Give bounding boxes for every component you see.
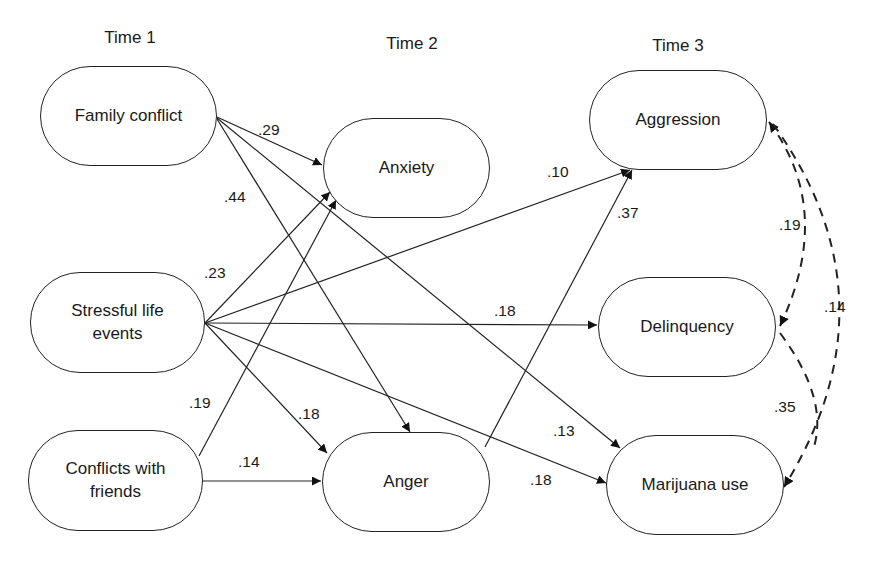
- node-label: Conflicts withfriends: [65, 458, 165, 504]
- coef-stress-anxiety: .23: [204, 264, 226, 282]
- coef-friends-anxiety: .19: [189, 394, 211, 412]
- time-2-label: Time 2: [386, 34, 437, 54]
- node-label: Anger: [383, 471, 428, 494]
- path-stress-delinquency: [205, 323, 597, 325]
- node-marijuana-use: Marijuana use: [606, 435, 784, 535]
- node-anxiety: Anxiety: [323, 118, 490, 218]
- coef-family-marijuana: .13: [553, 422, 575, 440]
- coef-stress-aggression: .10: [547, 163, 569, 181]
- coef-stress-marijuana: .18: [530, 471, 552, 489]
- coef-family-anxiety: .29: [258, 121, 280, 139]
- node-delinquency: Delinquency: [598, 277, 776, 377]
- coef-stress-delinquency: .18: [494, 302, 516, 320]
- node-aggression: Aggression: [589, 70, 767, 170]
- node-stressful-life-events: Stressful lifeevents: [30, 272, 205, 373]
- node-label: Aggression: [635, 109, 720, 132]
- coef-family-anger: .44: [224, 188, 246, 206]
- time-3-label: Time 3: [652, 36, 703, 56]
- coef-corr-aggression-delinquency: .19: [779, 216, 801, 234]
- node-conflicts-with-friends: Conflicts withfriends: [28, 430, 203, 531]
- node-label: Marijuana use: [642, 474, 749, 497]
- node-label: Stressful lifeevents: [71, 300, 164, 346]
- coef-corr-delinquency-marijuana: .35: [774, 398, 796, 416]
- time-1-label: Time 1: [104, 28, 155, 48]
- coef-stress-anger: .18: [298, 405, 320, 423]
- coef-corr-aggression-marijuana: .14: [824, 298, 846, 316]
- node-label: Anxiety: [379, 157, 435, 180]
- path-stress-anger: [205, 323, 327, 453]
- node-family-conflict: Family conflict: [40, 66, 217, 166]
- node-anger: Anger: [322, 432, 490, 532]
- node-label: Delinquency: [640, 316, 734, 339]
- coef-anger-aggression: .37: [617, 204, 639, 222]
- coef-friends-anger: .14: [238, 453, 260, 471]
- path-stress-anxiety: [205, 192, 330, 323]
- node-label: Family conflict: [75, 105, 183, 128]
